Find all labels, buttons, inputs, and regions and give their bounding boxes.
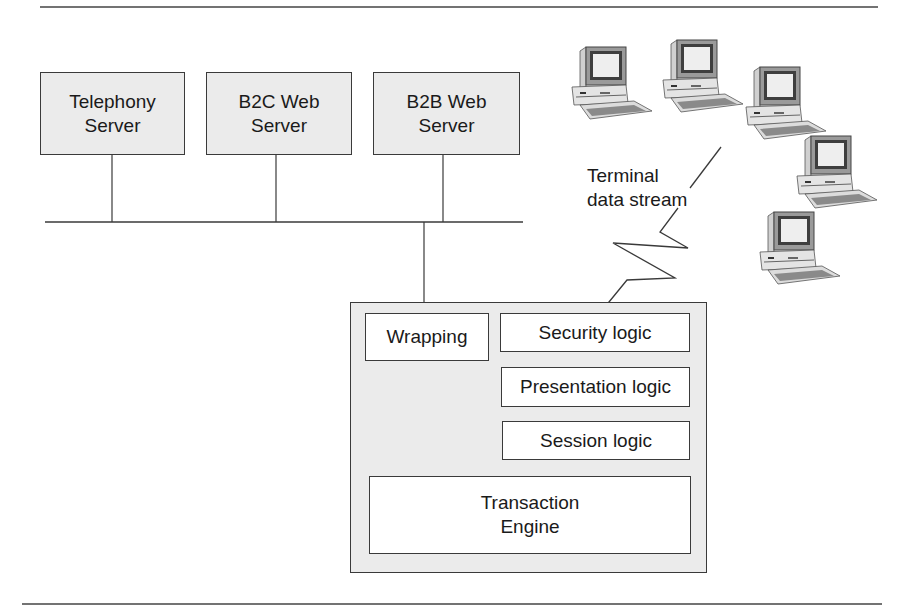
data-stream-bolt xyxy=(600,208,688,313)
data-stream-line xyxy=(690,147,721,188)
session-logic-box: Session logic xyxy=(502,421,690,460)
terminal-computer-icon xyxy=(663,40,743,112)
telephony-server-box: Telephony Server xyxy=(40,72,185,155)
terminal-computer-icon xyxy=(746,67,826,139)
b2b-web-server-label: B2B Web Server xyxy=(374,90,519,138)
b2b-web-server-box: B2B Web Server xyxy=(373,72,520,155)
b2c-web-server-label: B2C Web Server xyxy=(207,90,351,138)
terminal-data-stream-label: Terminal data stream xyxy=(587,164,687,212)
presentation-logic-label: Presentation logic xyxy=(502,375,689,399)
security-logic-label: Security logic xyxy=(501,321,689,345)
terminal-computer-icon xyxy=(797,136,877,208)
session-logic-label: Session logic xyxy=(503,429,689,453)
telephony-server-label: Telephony Server xyxy=(41,90,184,138)
wrapping-label: Wrapping xyxy=(366,325,488,349)
b2c-web-server-box: B2C Web Server xyxy=(206,72,352,155)
terminal-computer-icon xyxy=(760,212,840,284)
security-logic-box: Security logic xyxy=(500,313,690,352)
transaction-engine-box: Transaction Engine xyxy=(369,476,691,554)
transaction-engine-label: Transaction Engine xyxy=(370,491,690,539)
terminal-computer-icon xyxy=(572,47,652,119)
presentation-logic-box: Presentation logic xyxy=(501,367,690,407)
wrapping-box: Wrapping xyxy=(365,313,489,361)
